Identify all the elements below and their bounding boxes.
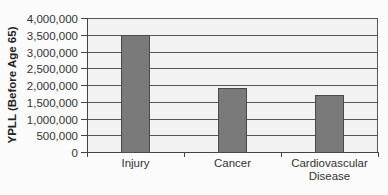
y-tick-label: 2,000,000 xyxy=(27,80,78,92)
y-tick-label: 0 xyxy=(72,147,78,159)
y-tick-mark xyxy=(81,35,87,36)
y-tick-mark xyxy=(81,52,87,53)
y-tick-label: 1,500,000 xyxy=(27,97,78,109)
y-tick-label: 500,000 xyxy=(36,130,78,142)
y-tick-mark xyxy=(81,85,87,86)
y-tick-mark xyxy=(81,119,87,120)
y-tick-mark xyxy=(81,18,87,19)
bar-cancer xyxy=(218,88,247,153)
y-tick-mark xyxy=(81,102,87,103)
x-tick-label: Cancer xyxy=(184,157,281,170)
x-tick-label: Injury xyxy=(87,157,184,170)
y-tick-label: 2,500,000 xyxy=(27,63,78,75)
x-tick-label: CardiovascularDisease xyxy=(281,157,378,183)
y-axis-title: YPLL (Before Age 65) xyxy=(6,27,18,144)
y-tick-mark xyxy=(81,68,87,69)
y-tick-mark xyxy=(81,135,87,136)
bar-injury xyxy=(121,35,150,153)
x-tick-mark xyxy=(378,152,379,157)
y-axis-line xyxy=(87,18,88,153)
y-tick-label: 3,000,000 xyxy=(27,47,78,59)
bar-chart: YPLL (Before Age 65) 0500,0001,000,0001,… xyxy=(0,0,388,195)
y-tick-label: 4,000,000 xyxy=(27,13,78,25)
y-tick-label: 1,000,000 xyxy=(27,114,78,126)
y-tick-label: 3,500,000 xyxy=(27,30,78,42)
bar-cardiovascular-disease xyxy=(315,95,344,153)
